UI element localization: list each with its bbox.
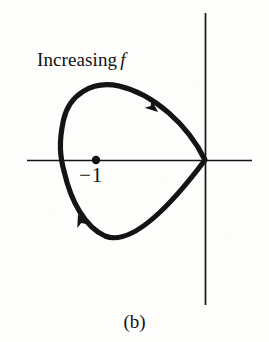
minus-one-annotation: −1 [79, 165, 103, 186]
increasing-f-annotation: Increasingf [37, 50, 126, 69]
increasing-f-text: Increasing [37, 49, 117, 70]
function-symbol-f: f [117, 49, 125, 70]
figure-caption: (b) [0, 312, 269, 331]
figure-container: Increasingf −1 (b) [0, 0, 269, 342]
